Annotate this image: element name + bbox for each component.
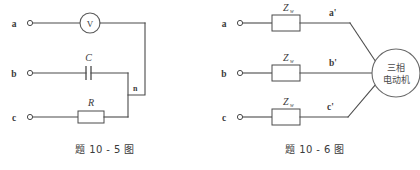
capacitor-label: C <box>85 52 92 63</box>
impedance-box-a <box>272 15 300 31</box>
figure-10-6: Z w a' Z w b' Z w <box>210 0 420 170</box>
resistor-label: R <box>87 97 94 108</box>
impedance-label-c: Z <box>283 96 289 107</box>
impedance-box-b <box>272 65 300 81</box>
branch-b: C <box>27 52 128 80</box>
terminal-label-b: b <box>221 69 226 79</box>
terminal-b-node[interactable] <box>27 70 32 75</box>
impedance-box-c <box>272 109 300 125</box>
impedance-subscript-c: w <box>290 102 294 108</box>
three-phase-motor: 三相 电动机 <box>372 49 420 97</box>
terminal-b-node[interactable] <box>237 70 242 75</box>
terminal-label-a: a <box>12 19 17 29</box>
wire-c-to-motor <box>348 84 376 117</box>
impedance-label-a: Z <box>283 2 289 13</box>
circuit-diagram-10-5: V C R <box>0 0 210 140</box>
figure-10-6-caption: 题 10 - 6 图 <box>210 141 420 156</box>
impedance-subscript-b: w <box>290 58 294 64</box>
wire-a-to-motor <box>350 23 376 62</box>
motor-label-line2: 电动机 <box>383 74 410 85</box>
terminal-label-b: b <box>11 69 16 79</box>
figure-10-5-caption: 题 10 - 5 图 <box>0 141 210 156</box>
figure-10-5: V C R <box>0 0 210 170</box>
node-n-label: n <box>133 84 138 93</box>
terminal-label-b-prime: b' <box>329 58 337 68</box>
phase-a-branch: Z w a' <box>237 2 376 62</box>
terminal-c-node[interactable] <box>237 114 242 119</box>
phase-b-branch: Z w b' <box>237 52 376 81</box>
terminal-a-node[interactable] <box>27 20 32 25</box>
terminal-label-a-prime: a' <box>329 8 336 18</box>
motor-label-line1: 三相 <box>387 62 405 73</box>
motor-circle <box>372 49 420 97</box>
figure-page: V C R <box>0 0 420 170</box>
branch-c: R <box>27 97 128 123</box>
terminal-c-node[interactable] <box>27 114 32 119</box>
circuit-diagram-10-6: Z w a' Z w b' Z w <box>210 0 420 140</box>
impedance-subscript-a: w <box>290 8 294 14</box>
terminal-label-c: c <box>12 113 16 123</box>
terminal-label-c-prime: c' <box>327 102 334 112</box>
branch-a: V <box>27 13 145 33</box>
voltmeter-label: V <box>87 19 94 29</box>
terminal-label-a: a <box>222 19 227 29</box>
impedance-label-b: Z <box>283 52 289 63</box>
phase-c-branch: Z w c' <box>237 84 376 125</box>
terminal-a-node[interactable] <box>237 20 242 25</box>
resistor-box <box>78 111 104 123</box>
terminal-label-c: c <box>222 113 226 123</box>
